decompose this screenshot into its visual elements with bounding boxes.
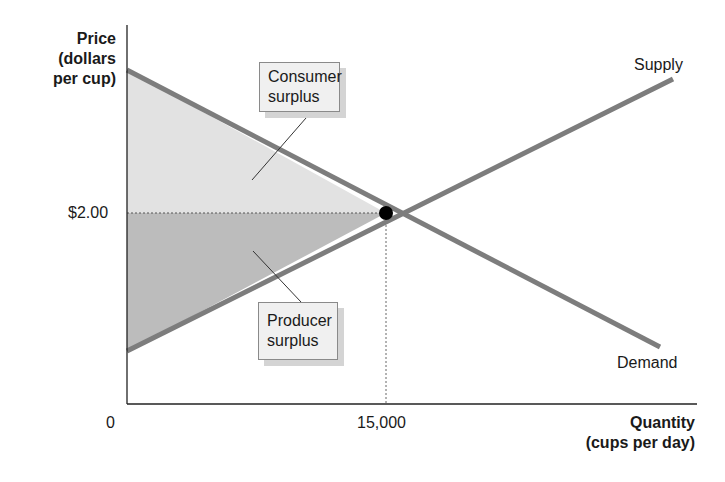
x-axis-label-line2: (cups per day)	[586, 433, 695, 453]
supply-label: Supply	[634, 55, 683, 75]
producer-surplus-line2: surplus	[267, 331, 329, 351]
y-axis-label-line1: Price	[53, 29, 116, 49]
x-axis-label-line1: Quantity	[586, 413, 695, 433]
consumer-surplus-callout: Consumer surplus	[259, 62, 340, 112]
x-axis-label: Quantity (cups per day)	[586, 413, 695, 453]
y-axis-label: Price (dollars per cup)	[53, 29, 116, 89]
price-tick-label: $2.00	[68, 203, 108, 223]
y-axis-label-line2: (dollars	[53, 49, 116, 69]
consumer-surplus-line2: surplus	[268, 87, 331, 107]
producer-surplus-callout: Producer surplus	[258, 302, 338, 360]
equilibrium-point	[379, 206, 393, 220]
demand-label: Demand	[617, 353, 677, 373]
producer-surplus-line1: Producer	[267, 311, 329, 331]
y-axis-label-line3: per cup)	[53, 69, 116, 89]
quantity-tick-label: 15,000	[357, 413, 406, 433]
consumer-surplus-line1: Consumer	[268, 67, 331, 87]
origin-label: 0	[106, 413, 115, 433]
